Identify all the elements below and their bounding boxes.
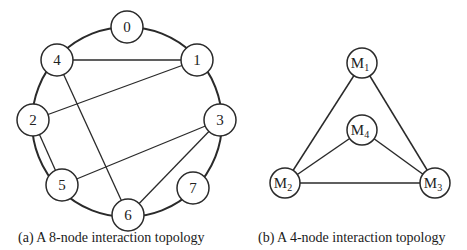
svg-text:5: 5	[58, 177, 66, 193]
caption-a: (a) A 8-node interaction topology	[18, 230, 205, 246]
edge-3-6	[128, 120, 220, 215]
node-M1: M1	[347, 48, 377, 78]
svg-text:4: 4	[53, 52, 61, 68]
svg-text:3: 3	[216, 112, 224, 128]
node-M3: M3	[420, 168, 450, 198]
node-1: 1	[181, 44, 213, 76]
node-3: 3	[204, 104, 236, 136]
topology-diagram: 01234567 M1M2M3M4	[0, 0, 467, 250]
svg-text:1: 1	[193, 52, 201, 68]
node-6: 6	[112, 199, 144, 231]
node-2: 2	[17, 104, 49, 136]
svg-text:6: 6	[124, 207, 132, 223]
svg-text:7: 7	[189, 180, 197, 196]
four-node-topology: M1M2M3M4	[270, 48, 450, 198]
eight-node-topology: 01234567	[17, 11, 236, 231]
node-5: 5	[46, 169, 78, 201]
node-0: 0	[111, 11, 143, 43]
node-7: 7	[177, 172, 209, 204]
svg-text:0: 0	[123, 19, 131, 35]
node-4: 4	[41, 44, 73, 76]
node-M2: M2	[270, 168, 300, 198]
svg-text:2: 2	[29, 112, 37, 128]
caption-b: (b) A 4-node interaction topology	[258, 230, 445, 246]
node-M4: M4	[347, 115, 377, 145]
